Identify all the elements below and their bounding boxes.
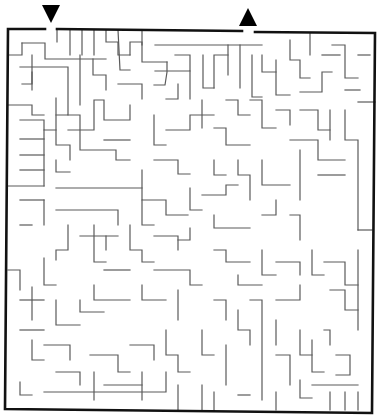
maze-wall [56, 210, 118, 225]
maze-wall [8, 270, 20, 290]
maze-wall [238, 160, 250, 200]
maze-wall [20, 382, 32, 395]
maze-wall [154, 236, 178, 250]
maze-wall [312, 250, 324, 275]
maze-canvas [0, 0, 381, 420]
maze-wall [238, 275, 262, 285]
maze-wall [290, 140, 345, 160]
maze-wall [130, 225, 154, 262]
maze-wall [154, 160, 190, 174]
maze-wall [276, 60, 290, 95]
maze-wall [262, 200, 276, 215]
maze-wall [324, 330, 330, 345]
maze-wall [166, 330, 190, 372]
maze-wall [22, 72, 32, 84]
maze-wall [20, 120, 56, 130]
maze-border-segment [57, 29, 242, 31]
maze-wall [214, 55, 228, 88]
maze-wall [214, 300, 226, 320]
maze-wall [178, 228, 190, 240]
maze-wall [226, 100, 250, 115]
maze-wall [250, 300, 262, 400]
maze-wall [250, 100, 276, 128]
maze-wall [262, 250, 276, 275]
maze-wall [166, 115, 214, 130]
maze-wall [203, 55, 214, 88]
maze-wall [44, 258, 56, 285]
maze-wall [32, 340, 44, 360]
maze-wall [93, 59, 106, 90]
maze-wall [290, 40, 310, 78]
maze-wall [276, 262, 300, 275]
maze-wall [312, 340, 324, 372]
maze-wall [214, 160, 226, 175]
maze-wall [155, 55, 190, 71]
maze-wall [190, 188, 202, 210]
maze-wall [56, 372, 80, 385]
maze-wall [94, 225, 106, 262]
maze-wall [8, 43, 22, 55]
maze-wall [214, 128, 250, 145]
maze-wall [300, 380, 312, 398]
maze-wall [90, 355, 130, 372]
maze-wall [130, 345, 154, 360]
maze-wall [276, 355, 290, 385]
maze-wall [154, 115, 166, 145]
maze-wall [238, 310, 250, 345]
maze-wall [214, 215, 250, 228]
maze-wall [332, 45, 358, 78]
maze-wall [300, 110, 330, 130]
maze-wall [336, 355, 350, 375]
maze-wall [154, 270, 202, 285]
maze-wall [20, 67, 68, 115]
maze-wall [154, 62, 167, 85]
maze-walls [8, 29, 375, 410]
maze-wall [300, 330, 312, 355]
maze-wall [142, 285, 166, 300]
maze-wall [80, 300, 104, 312]
maze-wall [44, 372, 166, 392]
maze-wall [345, 110, 358, 230]
maze-wall [330, 290, 358, 310]
maze-wall [262, 160, 290, 185]
maze-wall [202, 330, 214, 355]
maze-wall [276, 110, 290, 125]
maze-wall [262, 55, 276, 72]
up-arrow-icon [239, 8, 257, 26]
maze-puzzle [0, 0, 381, 420]
down-arrow-icon [42, 5, 60, 23]
maze-wall [44, 345, 70, 360]
maze-wall [56, 300, 80, 325]
maze-wall [214, 250, 250, 262]
maze-wall [202, 185, 238, 195]
maze-wall [252, 55, 262, 97]
maze-wall [118, 84, 142, 99]
maze-wall [290, 215, 300, 240]
maze-wall [94, 285, 130, 300]
maze-wall [276, 285, 300, 300]
maze-wall [142, 170, 188, 215]
maze-wall [324, 262, 358, 285]
maze-wall [300, 72, 332, 92]
maze-wall [166, 84, 178, 99]
maze-wall [56, 160, 70, 172]
maze-wall [68, 115, 130, 160]
maze-wall [8, 105, 44, 115]
maze-wall [118, 30, 130, 70]
maze-wall [142, 200, 154, 225]
maze-wall [56, 225, 68, 260]
